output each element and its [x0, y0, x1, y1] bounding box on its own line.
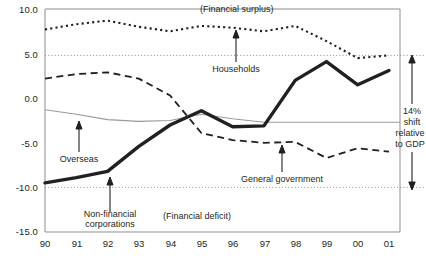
annotation-nfc-line1: Non-financial — [74, 209, 146, 220]
annotation-shift-line2: shift — [388, 117, 426, 128]
annotation-financial-surplus: (Financial surplus) — [200, 4, 274, 15]
y-tick-neg15: -15.0 — [0, 227, 38, 237]
x-tick-90: 90 — [32, 239, 58, 249]
x-tick-92: 92 — [95, 239, 121, 249]
x-tick-00: 00 — [345, 239, 371, 249]
annotation-financial-deficit: (Financial deficit) — [152, 211, 242, 222]
x-tick-95: 95 — [189, 239, 215, 249]
y-tick-neg5: -5.0 — [0, 139, 38, 149]
x-tick-01: 01 — [376, 239, 402, 249]
y-tick-0: 0.0 — [0, 94, 38, 104]
x-tick-96: 96 — [220, 239, 246, 249]
annotation-shift-line4: to GDP — [386, 139, 426, 150]
annotation-shift-line1: 14% — [388, 106, 426, 117]
y-tick-10: 10.0 — [0, 5, 38, 15]
y-tick-5: 5.0 — [0, 50, 38, 60]
annotation-shift-line3: relative — [386, 128, 426, 139]
x-tick-94: 94 — [158, 239, 184, 249]
x-tick-93: 93 — [126, 239, 152, 249]
x-tick-99: 99 — [314, 239, 340, 249]
series-households — [45, 21, 389, 59]
annotation-nfc-line2: corporations — [74, 219, 146, 230]
annotation-overseas: Overseas — [52, 154, 106, 165]
x-tick-97: 97 — [252, 239, 278, 249]
x-tick-98: 98 — [283, 239, 309, 249]
annotation-general-government: General government — [228, 174, 336, 185]
annotation-households: Households — [203, 64, 269, 75]
chart-container: 10.0 5.0 0.0 -5.0 -10.0 -15.0 90 91 92 9… — [0, 0, 426, 256]
x-tick-91: 91 — [64, 239, 90, 249]
y-tick-neg10: -10.0 — [0, 183, 38, 193]
series-general-government — [45, 72, 389, 158]
